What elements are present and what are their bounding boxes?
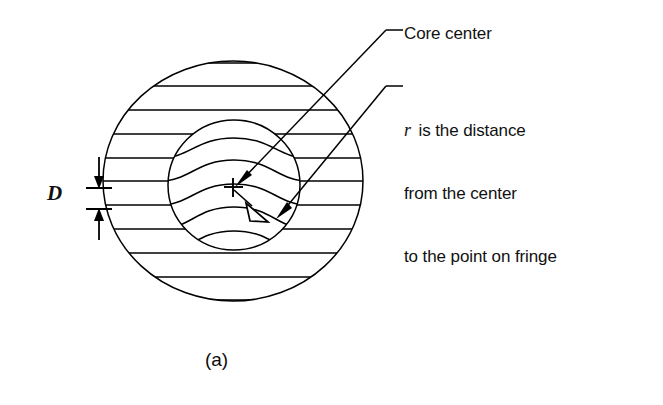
leader-line-r-description <box>276 86 403 219</box>
label-r-line-1-text: is the distance <box>414 121 526 140</box>
radius-vector-r <box>234 190 268 222</box>
figure-container: Core center r is the distance from the c… <box>0 0 663 405</box>
label-r-description: r is the distance from the center to the… <box>404 78 557 309</box>
label-r-line-3: to the point on fringe <box>404 246 557 267</box>
r-symbol: r <box>404 120 414 140</box>
spacing-dimension-marker <box>86 157 112 240</box>
label-r-line-1: r is the distance <box>404 120 557 141</box>
figure-caption: (a) <box>205 349 228 370</box>
label-core-center: Core center <box>404 23 492 44</box>
fringe-pattern-drawing <box>0 0 663 405</box>
label-r-line-2: from the center <box>404 183 557 204</box>
label-spacing-d: D <box>47 183 62 204</box>
